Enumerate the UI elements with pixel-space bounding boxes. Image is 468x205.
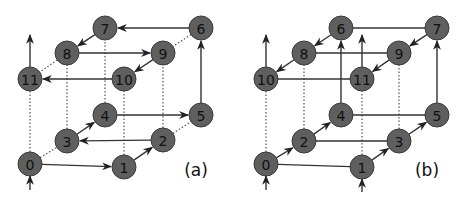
dotted-edge [173, 122, 191, 134]
arrow-edge [373, 60, 390, 72]
node-label: 2 [159, 133, 168, 149]
node-11: 11 [18, 67, 42, 91]
node-9: 9 [387, 41, 411, 65]
node-label: 11 [21, 72, 39, 88]
nodes: 0123456789101101234567891011 [18, 16, 449, 179]
node-6: 6 [189, 16, 213, 40]
arrow-edge [80, 140, 151, 141]
arrow-edge [276, 148, 293, 158]
arrow-edge [42, 164, 111, 166]
solid-edge [278, 164, 350, 166]
node-4: 4 [329, 103, 353, 127]
node-label: 6 [337, 21, 346, 37]
panel-label: (b) [415, 160, 439, 180]
panel-labels: (a)(b) [184, 160, 439, 180]
node-label: 9 [395, 46, 404, 62]
node-label: 1 [120, 160, 129, 176]
node-7: 7 [425, 16, 449, 40]
node-5: 5 [189, 103, 213, 127]
node-8: 8 [55, 41, 79, 65]
node-label: 9 [159, 46, 168, 62]
node-2: 2 [151, 128, 175, 152]
arrow-edge [277, 60, 294, 72]
node-3: 3 [387, 129, 411, 153]
node-0: 0 [18, 152, 42, 176]
node-label: 5 [433, 108, 442, 124]
node-label: 10 [115, 72, 133, 88]
node-label: 7 [101, 21, 110, 37]
dotted-edge [40, 60, 57, 72]
node-label: 3 [395, 134, 404, 150]
node-10: 10 [254, 67, 278, 91]
node-11: 11 [350, 67, 374, 91]
node-5: 5 [425, 103, 449, 127]
node-label: 6 [197, 21, 206, 37]
node-2: 2 [292, 129, 316, 153]
node-6: 6 [329, 16, 353, 40]
node-label: 8 [300, 46, 309, 62]
node-1: 1 [350, 155, 374, 179]
arrow-edge [135, 60, 153, 72]
arrow-edge [410, 35, 427, 46]
arrow-edge [372, 148, 389, 160]
node-3: 3 [55, 129, 79, 153]
node-label: 7 [433, 21, 442, 37]
arrow-edge [315, 35, 331, 46]
node-label: 4 [101, 108, 110, 124]
node-label: 1 [358, 160, 367, 176]
node-label: 11 [353, 72, 371, 88]
dotted-edge [40, 147, 57, 157]
node-8: 8 [292, 41, 316, 65]
node-label: 4 [337, 108, 346, 124]
node-10: 10 [112, 67, 136, 91]
arrow-edge [78, 35, 95, 46]
arrow-edge [314, 122, 331, 134]
node-4: 4 [93, 103, 117, 127]
node-1: 1 [112, 155, 136, 179]
node-label: 8 [63, 46, 72, 62]
arrow-edge [134, 147, 152, 160]
arrow-edge [77, 122, 94, 134]
node-0: 0 [254, 152, 278, 176]
node-label: 10 [257, 72, 275, 88]
cube-traversal-diagram: 0123456789101101234567891011 (a)(b) [0, 0, 468, 205]
node-7: 7 [93, 16, 117, 40]
node-label: 0 [26, 157, 35, 173]
node-9: 9 [151, 41, 175, 65]
node-label: 3 [63, 134, 72, 150]
node-label: 5 [197, 108, 206, 124]
node-label: 2 [300, 134, 309, 150]
dotted-edge [173, 35, 191, 47]
panel-label: (a) [184, 160, 208, 180]
arrow-edge [409, 122, 426, 134]
node-label: 0 [262, 157, 271, 173]
